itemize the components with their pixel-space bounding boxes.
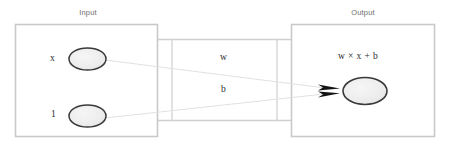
output-panel-caption: Output: [333, 8, 393, 17]
neural-unit-diagram: Input Output x 1 w b w × x + b: [0, 0, 450, 153]
diagram-canvas: [0, 0, 450, 153]
input-panel-caption: Input: [58, 8, 118, 17]
output-node-shape: [343, 78, 387, 105]
edge-weight-x: [105, 60, 333, 89]
edge-bias-one: [105, 93, 333, 118]
input-node-one-label: 1: [51, 109, 56, 119]
input-node-x-shape: [69, 48, 106, 70]
edge-group: [105, 60, 333, 118]
input-node-one-shape: [69, 105, 106, 127]
input-node-x-label: x: [50, 53, 55, 63]
weight-label: w: [220, 52, 227, 62]
output-formula-label: w × x + b: [338, 51, 378, 61]
arrowhead-group: [318, 85, 340, 98]
bias-label: b: [221, 84, 226, 94]
